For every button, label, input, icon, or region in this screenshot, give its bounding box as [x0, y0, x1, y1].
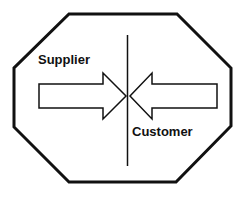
supplier-label: Supplier — [38, 53, 90, 66]
customer-label: Customer — [132, 125, 193, 138]
diagram-canvas — [0, 0, 250, 200]
